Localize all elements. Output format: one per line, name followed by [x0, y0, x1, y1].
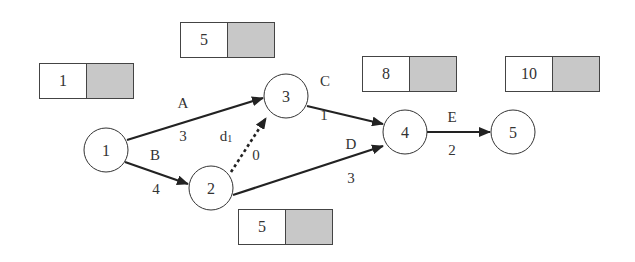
- label-activity-C: C: [320, 73, 330, 89]
- label-duration-B: 4: [152, 181, 160, 197]
- label-duration-A: 3: [179, 128, 187, 144]
- earliest-time-node-3: 5: [181, 23, 228, 57]
- latest-time-node-5: [553, 57, 599, 91]
- edge-C: [307, 106, 383, 124]
- node-4: 4: [383, 110, 427, 154]
- label-duration-D: 3: [347, 170, 355, 186]
- latest-time-node-3: [228, 23, 274, 57]
- label-activity-E: E: [447, 109, 456, 125]
- earliest-time-node-2: 5: [239, 210, 286, 244]
- time-box-node-5: 10: [505, 56, 600, 92]
- time-box-node-2: 5: [238, 209, 333, 245]
- latest-time-node-1: [87, 64, 133, 98]
- edge-A: [127, 98, 263, 140]
- label-duration-d1: 0: [252, 147, 260, 163]
- node-3: 3: [264, 74, 308, 118]
- node-5: 5: [491, 110, 535, 154]
- label-activity-A: A: [178, 95, 189, 111]
- time-box-node-4: 8: [362, 56, 457, 92]
- time-box-node-1: 1: [39, 63, 134, 99]
- label-activity-B: B: [150, 147, 160, 163]
- latest-time-node-4: [410, 57, 456, 91]
- time-box-node-3: 5: [180, 22, 275, 58]
- earliest-time-node-4: 8: [363, 57, 410, 91]
- svg-text:1: 1: [102, 142, 110, 159]
- svg-text:4: 4: [401, 124, 409, 141]
- edge-dummy-d1: [231, 118, 266, 172]
- earliest-time-node-1: 1: [40, 64, 87, 98]
- earliest-time-node-5: 10: [506, 57, 553, 91]
- label-duration-C: 1: [320, 107, 328, 123]
- label-duration-E: 2: [448, 142, 456, 158]
- label-activity-d1: d1: [220, 128, 233, 144]
- svg-text:3: 3: [282, 88, 290, 105]
- node-2: 2: [189, 166, 233, 210]
- latest-time-node-2: [286, 210, 332, 244]
- label-activity-D: D: [346, 136, 357, 152]
- svg-text:2: 2: [207, 180, 215, 197]
- node-1: 1: [84, 128, 128, 172]
- svg-text:5: 5: [509, 124, 517, 141]
